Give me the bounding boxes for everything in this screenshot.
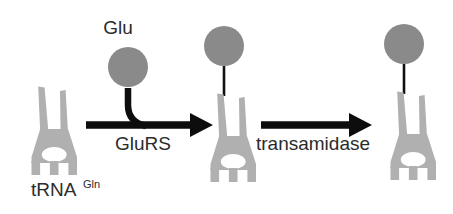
- enzyme-label-transamidase: transamidase: [256, 133, 370, 154]
- glu-label: Glu: [103, 17, 133, 38]
- glu-circle-attached: [204, 26, 244, 66]
- trna-label-superscript: Gln: [83, 178, 100, 190]
- enzyme-label-gluRS: GluRS: [115, 133, 171, 154]
- diagram-canvas: tRNA Gln Glu GluRS transamidase: [0, 0, 453, 214]
- trna-label-base: tRNA: [31, 179, 77, 200]
- pathway-diagram: tRNA Gln Glu GluRS transamidase: [0, 0, 453, 214]
- gln-circle-attached: [384, 24, 424, 64]
- glu-circle: [108, 47, 148, 87]
